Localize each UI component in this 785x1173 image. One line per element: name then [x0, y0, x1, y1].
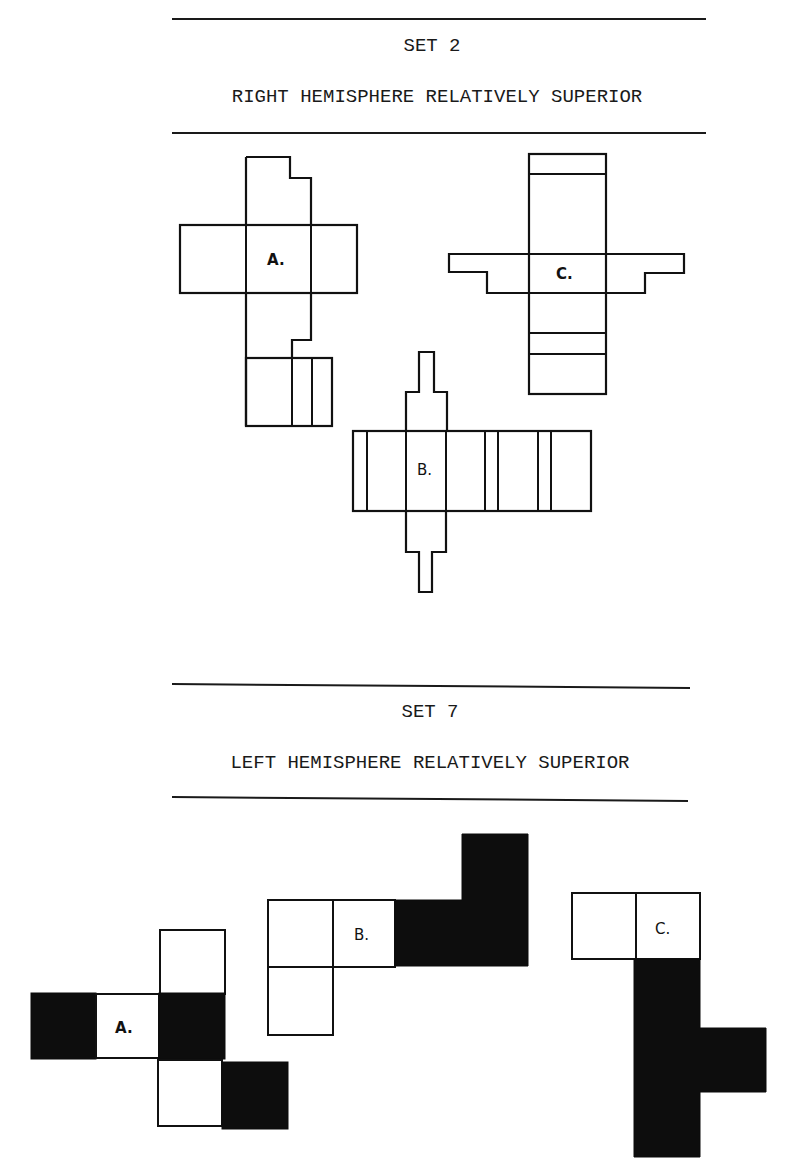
set2-figure-a: A.: [180, 157, 357, 426]
set7-bottom-rule: [172, 797, 688, 801]
set7-c-shaded-t-shape: [634, 959, 766, 1157]
set7-a-square-bottom: [158, 1060, 222, 1126]
set7-a-square-right-shaded: [222, 1062, 288, 1129]
set7-c-label: C.: [655, 920, 670, 938]
set7-top-rule: [172, 684, 690, 688]
set2-figure-b: B.: [353, 352, 591, 592]
set7-title: SET 7: [401, 701, 458, 723]
set2-a-lower-flap: [246, 293, 311, 426]
set7-figure-b: B.: [268, 834, 528, 1035]
set2-title: SET 2: [403, 35, 460, 57]
set2-c-left-wing: [449, 254, 529, 293]
set7-b-shaded-l-shape: [395, 834, 528, 966]
set2-subtitle: RIGHT HEMISPHERE RELATIVELY SUPERIOR: [232, 86, 642, 108]
set2-header: SET 2 RIGHT HEMISPHERE RELATIVELY SUPERI…: [172, 19, 706, 133]
set7-b-square-bottom: [268, 967, 333, 1035]
set7-a-square-center-shaded: [159, 993, 225, 1059]
set7-figure-a: A.: [31, 930, 288, 1129]
set2-b-label: B.: [417, 461, 432, 479]
set2-b-horizontal-band: [353, 431, 591, 511]
set2-b-bottom-stem: [406, 511, 446, 592]
set7-header: SET 7 LEFT HEMISPHERE RELATIVELY SUPERIO…: [172, 684, 690, 801]
set2-a-top-flap: [246, 157, 311, 226]
set2-a-bottom-block: [246, 358, 332, 426]
set2-b-top-stem: [406, 352, 447, 431]
set7-a-label: A.: [115, 1019, 133, 1037]
set2-c-right-wing: [606, 254, 684, 293]
set7-b-label: B.: [354, 926, 369, 944]
set2-c-label: C.: [556, 265, 573, 283]
set7-subtitle: LEFT HEMISPHERE RELATIVELY SUPERIOR: [230, 752, 629, 774]
set7-b-square-left: [268, 900, 333, 967]
set2-figure-c: C.: [449, 154, 684, 394]
set2-a-label: A.: [267, 251, 285, 269]
set7-a-square-left-shaded: [31, 993, 96, 1059]
set7-c-square-left: [572, 893, 636, 959]
set7-figure-c: C.: [572, 893, 766, 1157]
diagram-canvas: SET 2 RIGHT HEMISPHERE RELATIVELY SUPERI…: [0, 0, 785, 1173]
set7-a-square-top: [160, 930, 225, 994]
